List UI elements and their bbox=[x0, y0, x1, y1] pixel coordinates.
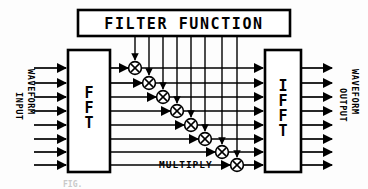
input-channel-lines bbox=[34, 68, 66, 165]
multiplier-node-3 bbox=[157, 91, 170, 104]
input-waveform-label: WAVEFORM bbox=[26, 69, 36, 115]
multiplier-node-4 bbox=[171, 105, 184, 118]
multiplier-node-7 bbox=[216, 146, 229, 159]
output-waveform-label: WAVEFORM bbox=[350, 69, 360, 115]
output-label-group: OUTPUT WAVEFORM bbox=[338, 69, 360, 122]
fft-filter-ifft-diagram: FILTER FUNCTION F F T I F F T bbox=[0, 0, 368, 189]
multiplier-node-6 bbox=[199, 133, 212, 146]
multiplier-nodes bbox=[129, 62, 244, 172]
filter-function-label: FILTER FUNCTION bbox=[104, 15, 263, 33]
output-channel-lines bbox=[302, 68, 332, 165]
multiply-label: MULTIPLY bbox=[159, 159, 213, 170]
multiplier-node-1 bbox=[129, 62, 142, 75]
multiplier-node-5 bbox=[185, 119, 198, 132]
figure-caption: FIG. bbox=[63, 180, 82, 189]
fft-block-letter-2: T bbox=[84, 114, 93, 132]
ifft-block-letter-3: T bbox=[278, 122, 287, 140]
multiplier-node-8 bbox=[231, 159, 244, 172]
diagram-canvas: FILTER FUNCTION F F T I F F T bbox=[0, 0, 368, 189]
input-label: INPUT bbox=[14, 92, 24, 121]
multiplier-node-2 bbox=[143, 77, 156, 90]
output-label: OUTPUT bbox=[338, 88, 348, 122]
multiply-bus-lines bbox=[111, 68, 263, 165]
input-label-group: INPUT WAVEFORM bbox=[14, 69, 36, 121]
